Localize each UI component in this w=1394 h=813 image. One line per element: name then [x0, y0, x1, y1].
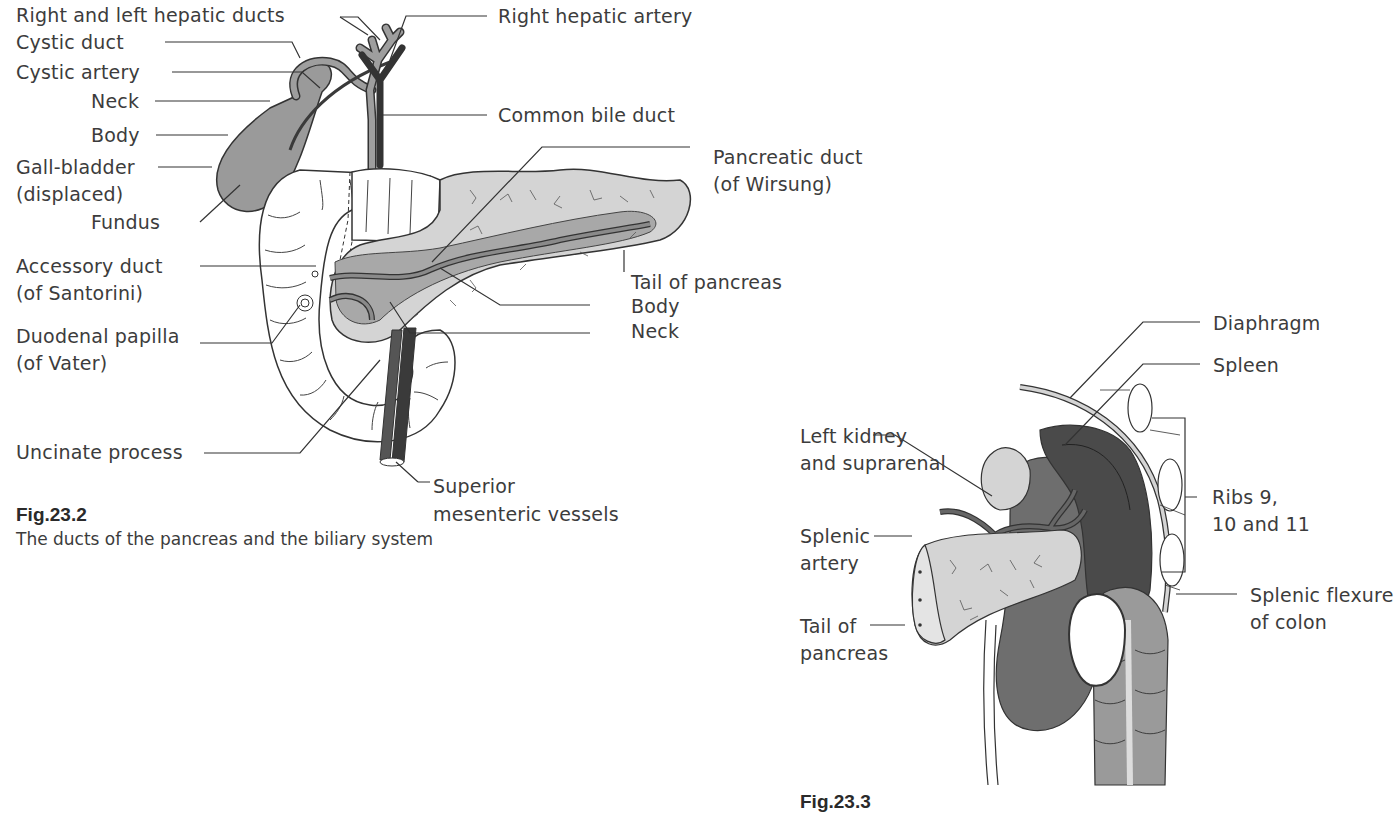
rib-11-shape: [1160, 534, 1184, 586]
rib-10-shape: [1158, 459, 1182, 511]
figure-23-3-number: Fig.23.3: [800, 791, 871, 813]
label-splenic-artery: Splenic: [800, 525, 870, 547]
label-splenic-flexure: Splenic flexure: [1250, 584, 1394, 606]
rib-9-shape: [1128, 384, 1152, 432]
label-left-kidney-suprarenal: and suprarenal: [800, 452, 946, 474]
label-splenic-artery-2: artery: [800, 552, 859, 574]
label-splenic-flexure-colon: of colon: [1250, 611, 1327, 633]
label-tail-of-pancreas-2: Tail of: [800, 615, 856, 637]
label-diaphragm: Diaphragm: [1213, 312, 1320, 334]
suprarenal-shape: [981, 448, 1030, 510]
label-tail-of-pancreas-2b: pancreas: [800, 642, 888, 664]
label-ribs-numbers: 10 and 11: [1212, 513, 1310, 535]
label-ribs: Ribs 9,: [1212, 486, 1278, 508]
label-spleen: Spleen: [1213, 354, 1279, 376]
label-left-kidney: Left kidney: [800, 425, 907, 447]
